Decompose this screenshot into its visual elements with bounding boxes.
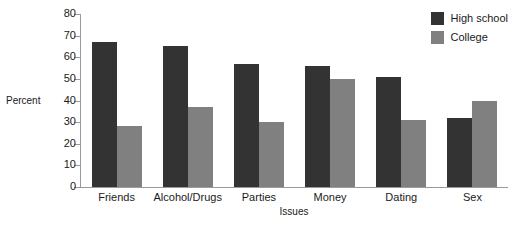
x-axis-label: Issues xyxy=(80,206,508,217)
bar-college xyxy=(188,107,213,187)
x-tick-label: Money xyxy=(295,191,366,204)
y-tick-label: 10 xyxy=(64,158,76,171)
y-tick-label: 80 xyxy=(64,7,76,20)
y-axis-label: Percent xyxy=(6,95,40,106)
x-tick-label: Friends xyxy=(81,191,152,204)
y-tick-label: 20 xyxy=(64,137,76,150)
y-tick-label: 60 xyxy=(64,50,76,63)
legend-item: High school xyxy=(431,12,508,25)
legend-label: High school xyxy=(451,12,508,25)
legend-swatch-icon xyxy=(431,12,444,25)
x-tick-label: Dating xyxy=(366,191,437,204)
y-tick-label: 30 xyxy=(64,115,76,128)
x-tick-label: Sex xyxy=(437,191,508,204)
bar-chart: Percent 80706050403020100 FriendsAlcohol… xyxy=(0,0,518,238)
bar-high-school xyxy=(163,46,188,187)
x-tick-label: Parties xyxy=(223,191,294,204)
bar-college xyxy=(401,120,426,187)
bar-high-school xyxy=(447,118,472,187)
bar-college xyxy=(259,122,284,187)
x-tick-label: Alcohol/Drugs xyxy=(152,191,223,204)
legend-label: College xyxy=(451,31,488,44)
y-tick-label: 40 xyxy=(64,94,76,107)
legend-item: College xyxy=(431,31,508,44)
bar-group: Dating xyxy=(366,14,437,187)
bar-high-school xyxy=(92,42,117,187)
bar-college xyxy=(472,101,497,188)
y-tick: 0 xyxy=(80,187,81,188)
x-axis-line xyxy=(80,187,508,188)
bar-group: Money xyxy=(295,14,366,187)
bar-group: Parties xyxy=(223,14,294,187)
bar-group: Friends xyxy=(81,14,152,187)
bar-group: Alcohol/Drugs xyxy=(152,14,223,187)
y-tick-label: 0 xyxy=(70,180,76,193)
y-tick-label: 70 xyxy=(64,29,76,42)
bar-high-school xyxy=(234,64,259,187)
legend-swatch-icon xyxy=(431,31,444,44)
bar-high-school xyxy=(376,77,401,187)
bar-college xyxy=(117,126,142,187)
bar-college xyxy=(330,79,355,187)
bar-high-school xyxy=(305,66,330,187)
chart-legend: High schoolCollege xyxy=(431,12,508,44)
y-tick-label: 50 xyxy=(64,72,76,85)
